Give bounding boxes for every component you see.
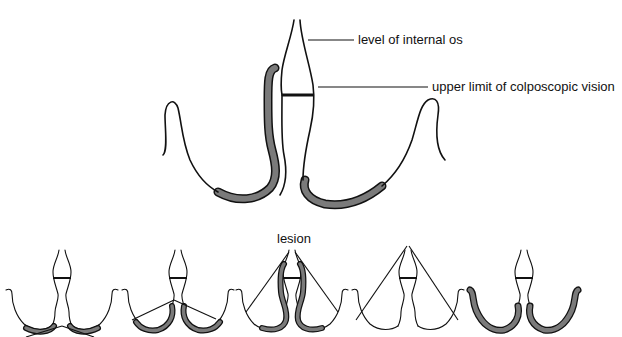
small-diagram-3 xyxy=(236,250,348,330)
small-diagram-2 xyxy=(122,250,234,331)
left-canal-wall xyxy=(281,20,294,95)
small-diagram-1 xyxy=(6,250,118,337)
colposcopic-limit-label: upper limit of colposcopic vision xyxy=(432,80,615,93)
main-cervix-diagram xyxy=(163,20,445,205)
right-canal-wall xyxy=(300,20,314,180)
cervix-diagram-canvas xyxy=(0,0,622,337)
internal-os-label: level of internal os xyxy=(358,33,463,46)
left-fornix xyxy=(163,102,218,192)
lesion-label: lesion xyxy=(277,232,311,245)
small-diagram-5 xyxy=(468,250,580,330)
right-fornix xyxy=(382,99,445,186)
small-diagram-4 xyxy=(352,246,464,330)
